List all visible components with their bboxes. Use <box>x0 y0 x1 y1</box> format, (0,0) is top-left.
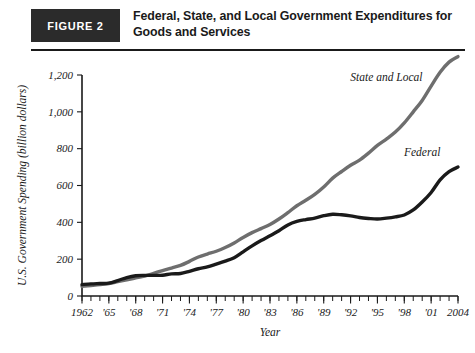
series-label-federal: Federal <box>403 146 440 158</box>
x-axis-tick-label: '89 <box>317 306 331 318</box>
x-axis-tick-label: 2004 <box>447 306 470 318</box>
x-axis-tick-label: '83 <box>263 306 277 318</box>
y-axis-title: U.S. Government Spending (billion dollar… <box>16 85 29 286</box>
line-chart: 02004006008001,0001,2001962'65'68'71'74'… <box>0 52 475 353</box>
figure-container: FIGURE 2 Federal, State, and Local Gover… <box>0 0 475 353</box>
figure-title: Federal, State, and Local Government Exp… <box>133 9 463 40</box>
series-label-state-and-local: State and Local <box>350 71 422 83</box>
chart-axes <box>82 75 458 296</box>
y-axis-tick-label: 600 <box>57 179 74 191</box>
x-axis-tick-label: '77 <box>210 306 224 318</box>
x-axis-tick-label: '71 <box>156 306 169 318</box>
x-axis-tick-label: 1962 <box>71 306 94 318</box>
figure-number-badge: FIGURE 2 <box>31 9 120 42</box>
y-axis-tick-label: 200 <box>57 253 74 265</box>
series-line-state-and-local <box>82 57 458 287</box>
x-axis-title: Year <box>260 326 281 338</box>
x-axis-tick-label: '01 <box>424 306 437 318</box>
x-axis-tick-label: '65 <box>102 306 116 318</box>
y-axis-tick-label: 1,200 <box>48 69 73 81</box>
x-axis-tick-label: '95 <box>371 306 385 318</box>
y-axis-tick-label: 0 <box>68 290 74 302</box>
x-axis-tick-label: '68 <box>129 306 143 318</box>
y-axis-tick-label: 800 <box>57 142 74 154</box>
x-axis-tick-label: '80 <box>236 306 250 318</box>
x-axis-tick-label: '92 <box>344 306 358 318</box>
y-axis-tick-label: 400 <box>57 216 74 228</box>
chart-area: 02004006008001,0001,2001962'65'68'71'74'… <box>0 52 475 353</box>
header-divider <box>31 49 465 51</box>
x-axis-tick-label: '98 <box>398 306 412 318</box>
y-axis-tick-label: 1,000 <box>48 106 73 118</box>
x-axis-tick-label: '74 <box>183 306 197 318</box>
figure-number-label: FIGURE 2 <box>47 20 103 32</box>
figure-header: FIGURE 2 Federal, State, and Local Gover… <box>0 0 475 52</box>
x-axis-tick-label: '86 <box>290 306 304 318</box>
